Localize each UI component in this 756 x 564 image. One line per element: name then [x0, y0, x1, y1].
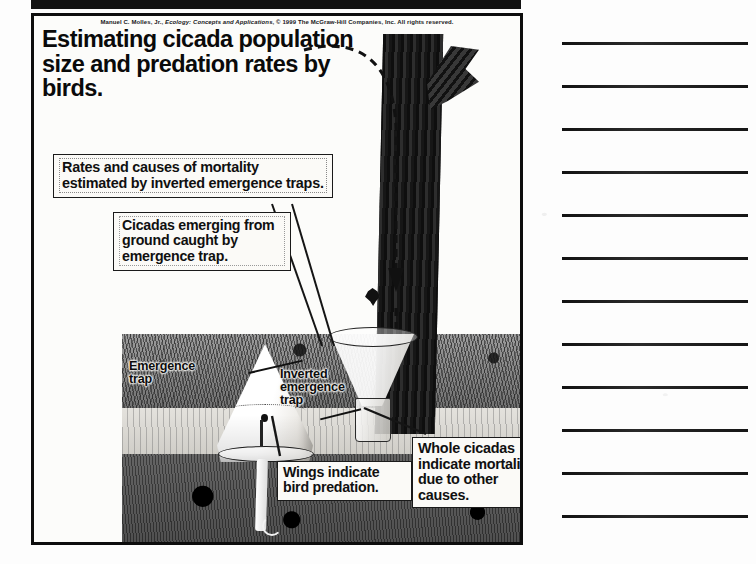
callout-whole: Whole cicadas indicate mortality due to …	[412, 437, 520, 508]
note-line[interactable]	[562, 128, 748, 131]
note-line[interactable]	[562, 343, 748, 346]
note-line[interactable]	[562, 85, 748, 88]
label-inverted-emergence-trap: Inverted emergence trap	[280, 368, 358, 408]
figure-title: Estimating cicada population size and pr…	[42, 27, 372, 101]
note-line[interactable]	[562, 214, 748, 217]
emergence-trap-stem	[260, 420, 263, 446]
callout-emerging-text: Cicadas emerging from ground caught by e…	[119, 216, 285, 266]
note-lines-area	[562, 0, 756, 564]
callout-whole-text: Whole cicadas indicate mortality due to …	[418, 441, 520, 503]
copyright-credit: Manuel C. Molles, Jr., Ecology: Concepts…	[34, 19, 520, 25]
credit-book-title: Ecology: Concepts and Applications	[165, 19, 273, 25]
note-line[interactable]	[562, 300, 748, 303]
credit-rights: , © 1999 The McGraw-Hill Companies, Inc.…	[273, 19, 454, 25]
inverted-trap-rim	[328, 327, 418, 347]
handout-page: Manuel C. Molles, Jr., Ecology: Concepts…	[0, 0, 756, 564]
callout-wings-text: Wings indicate bird predation.	[283, 465, 406, 496]
note-line[interactable]	[562, 386, 748, 389]
label-emergence-trap: Emergence trap	[129, 360, 217, 386]
note-line[interactable]	[562, 171, 748, 174]
callout-wings: Wings indicate bird predation.	[277, 461, 412, 501]
tube-curl	[262, 516, 282, 536]
figure-slide: Manuel C. Molles, Jr., Ecology: Concepts…	[31, 13, 523, 545]
slide-gap	[31, 9, 521, 12]
collection-jar	[355, 398, 391, 442]
callout-mortality: Rates and causes of mortality estimated …	[53, 154, 333, 198]
note-line[interactable]	[562, 429, 748, 432]
credit-author: Manuel C. Molles, Jr.,	[100, 19, 165, 25]
callout-mortality-text: Rates and causes of mortality estimated …	[59, 158, 327, 193]
note-line[interactable]	[562, 257, 748, 260]
note-line[interactable]	[562, 42, 748, 45]
note-line[interactable]	[562, 515, 748, 518]
note-line[interactable]	[562, 472, 748, 475]
callout-emerging: Cicadas emerging from ground caught by e…	[113, 212, 291, 271]
previous-slide-black-bar	[31, 0, 521, 9]
